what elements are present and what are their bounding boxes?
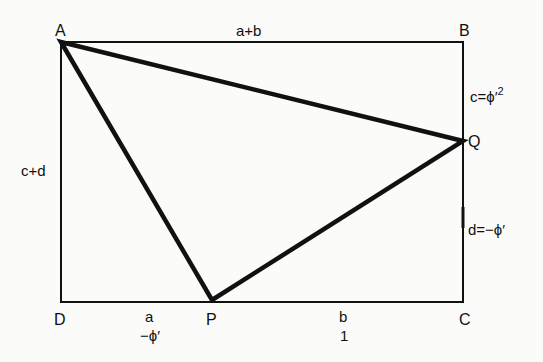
vertex-b-label: B: [459, 22, 470, 39]
top-side-label: a+b: [236, 22, 261, 39]
bottom-right-top-label: b: [339, 308, 347, 325]
bottom-left-top-label: a: [145, 308, 154, 325]
rectangle-abcd: [61, 42, 463, 302]
bottom-right-bottom-label: 1: [340, 327, 348, 344]
vertex-c-label: C: [459, 311, 471, 328]
right-lower-label: d=−ϕ′: [468, 221, 505, 238]
vertex-d-label: D: [54, 311, 66, 328]
right-upper-label: c=ϕ′2: [470, 85, 504, 105]
left-side-label: c+d: [21, 162, 46, 179]
vertex-p-label: P: [206, 311, 217, 328]
bottom-left-bottom-label: −ϕ′: [140, 327, 160, 344]
triangle-apq: [61, 42, 463, 300]
rectangle-triangle-diagram: A B C D P Q a+b c+d c=ϕ′2 d=−ϕ′ a −ϕ′ b …: [0, 0, 543, 362]
right-upper-base: c=ϕ′: [470, 88, 498, 105]
vertex-a-label: A: [55, 22, 66, 39]
right-upper-sup: 2: [497, 85, 503, 97]
vertex-q-label: Q: [468, 133, 480, 150]
